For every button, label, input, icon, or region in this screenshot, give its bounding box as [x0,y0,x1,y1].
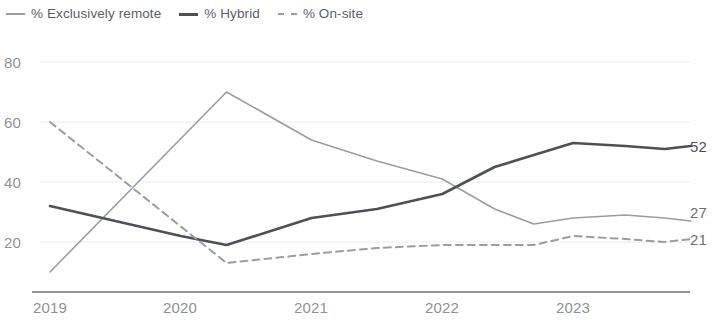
y-tick-80: 80 [4,54,34,71]
x-tick-2019: 2019 [33,299,67,316]
y-tick-20: 20 [4,234,34,251]
y-tick-40: 40 [4,174,34,191]
gridlines [40,62,690,242]
end-label-exclusively-remote: 27 [690,204,707,221]
y-tick-60: 60 [4,114,34,131]
plot-area [0,0,712,326]
line-chart: % Exclusively remote % Hybrid % On-site … [0,0,712,326]
x-tick-2021: 2021 [294,299,328,316]
x-tick-2020: 2020 [163,299,197,316]
x-tick-2022: 2022 [425,299,459,316]
x-tick-2023: 2023 [556,299,590,316]
end-label-on-site: 21 [690,231,707,248]
end-label-hybrid: 52 [690,138,707,155]
